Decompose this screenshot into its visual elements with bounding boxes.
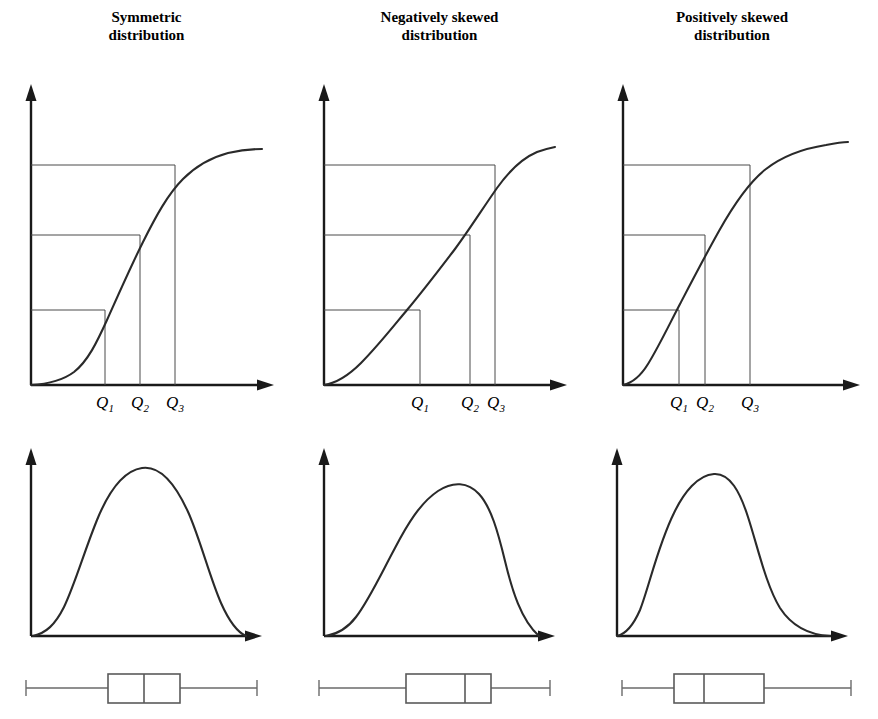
pdf-plot-negatively-skewed <box>293 440 586 655</box>
y-axis-arrow-icon <box>319 448 330 465</box>
y-axis-arrow-icon <box>26 448 37 465</box>
pdf-curve-positively-skewed <box>617 474 830 636</box>
iqr-box <box>674 674 764 703</box>
axes-negatively-skewed-cdf <box>319 84 568 391</box>
iqr-box <box>406 674 491 703</box>
axes-positively-skewed-pdf <box>612 448 849 642</box>
q2-label: Q2 <box>131 393 149 414</box>
boxplot-symmetric <box>0 660 293 716</box>
q2-label: Q2 <box>696 393 714 414</box>
q3-guide <box>623 165 750 385</box>
axes-positively-skewed-cdf <box>618 84 861 391</box>
quartile-guides-negatively-skewed-cdf <box>324 165 495 385</box>
quartile-tick-labels-positively-skewed: Q1 Q2 Q3 <box>670 393 759 414</box>
q3-label: Q3 <box>487 393 505 414</box>
q1-label: Q1 <box>96 393 114 414</box>
cdf-plot-symmetric: Q1 Q2 Q3 <box>0 70 293 415</box>
x-axis-arrow-icon <box>538 631 555 642</box>
axes-negatively-skewed-pdf <box>319 448 556 642</box>
q3-guide <box>324 165 495 385</box>
x-axis-arrow-icon <box>550 380 567 391</box>
cdf-plot-negatively-skewed: Q1 Q2 Q3 <box>293 70 586 415</box>
cdf-curve-positively-skewed <box>623 142 848 385</box>
pdf-plot-symmetric <box>0 440 293 655</box>
pdf-curve-symmetric <box>33 468 246 636</box>
x-axis-arrow-icon <box>843 380 860 391</box>
q1-label: Q1 <box>411 393 429 414</box>
pdf-curve-negatively-skewed <box>326 484 539 636</box>
quartile-guides-positively-skewed-cdf <box>623 165 750 385</box>
y-axis-arrow-icon <box>319 84 330 101</box>
panel-title-negatively-skewed: Negatively skewed distribution <box>293 8 586 44</box>
quartile-guides-symmetric-cdf <box>31 165 175 385</box>
y-axis-arrow-icon <box>618 84 629 101</box>
boxplot-positively-skewed <box>586 660 878 716</box>
quartile-tick-labels-negatively-skewed: Q1 Q2 Q3 <box>411 393 505 414</box>
q1-label: Q1 <box>670 393 688 414</box>
distribution-shapes-figure: Symmetric distribution Negatively skewed… <box>0 0 878 719</box>
panel-title-symmetric: Symmetric distribution <box>0 8 293 44</box>
x-axis-arrow-icon <box>257 380 274 391</box>
q3-label: Q3 <box>166 393 184 414</box>
pdf-plot-positively-skewed <box>586 440 878 655</box>
q3-label: Q3 <box>741 393 759 414</box>
q2-label: Q2 <box>461 393 479 414</box>
y-axis-arrow-icon <box>612 448 623 465</box>
quartile-tick-labels-symmetric: Q1 Q2 Q3 <box>96 393 184 414</box>
q1-guide <box>324 310 420 385</box>
cdf-curve-negatively-skewed <box>324 147 555 385</box>
boxplot-negatively-skewed <box>293 660 586 716</box>
panel-title-positively-skewed: Positively skewed distribution <box>586 8 878 44</box>
x-axis-arrow-icon <box>831 631 848 642</box>
cdf-curve-symmetric <box>31 149 262 385</box>
x-axis-arrow-icon <box>245 631 262 642</box>
axes-symmetric-cdf <box>26 84 275 391</box>
cdf-plot-positively-skewed: Q1 Q2 Q3 <box>586 70 878 415</box>
q3-guide <box>31 165 175 385</box>
y-axis-arrow-icon <box>26 84 37 101</box>
